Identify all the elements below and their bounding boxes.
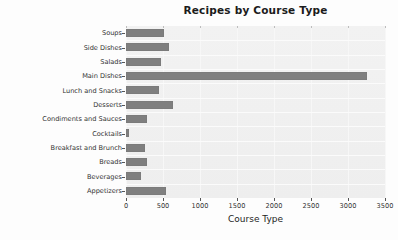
x-tick-mark-top	[163, 26, 164, 28]
x-tick-mark	[126, 198, 127, 201]
y-tick-mark	[122, 48, 125, 49]
x-axis-ticks: 0500100015002000250030003500	[126, 198, 385, 214]
y-tick-label: Salads	[4, 58, 122, 66]
bar-row[interactable]	[126, 184, 385, 198]
y-tick-label: Desserts	[4, 101, 122, 109]
bar[interactable]	[126, 187, 166, 195]
bar-row[interactable]	[126, 98, 385, 112]
bar-row[interactable]	[126, 141, 385, 155]
y-tick-label: Appetizers	[4, 187, 122, 195]
x-tick-mark	[274, 198, 275, 201]
x-tick-mark-top	[200, 26, 201, 28]
y-tick-label: Lunch and Snacks	[4, 87, 122, 95]
bar-row[interactable]	[126, 26, 385, 40]
bar-row[interactable]	[126, 55, 385, 69]
bar-row[interactable]	[126, 69, 385, 83]
x-tick-mark-top	[311, 26, 312, 28]
x-tick-label: 0	[124, 202, 128, 210]
x-tick-mark	[163, 198, 164, 201]
bar[interactable]	[126, 115, 147, 123]
x-tick-mark	[348, 198, 349, 201]
y-axis-ticks: SoupsSide DishesSaladsMain DishesLunch a…	[0, 26, 122, 198]
y-tick-mark	[122, 162, 125, 163]
bar-row[interactable]	[126, 112, 385, 126]
chart-title: Recipes by Course Type	[126, 4, 385, 20]
y-tick-label: Side Dishes	[4, 44, 122, 52]
x-tick-mark-top	[348, 26, 349, 28]
y-tick-label: Breakfast and Brunch	[4, 144, 122, 152]
x-tick-mark-top	[237, 26, 238, 28]
bar-row[interactable]	[126, 169, 385, 183]
x-tick-label: 2000	[266, 202, 283, 210]
x-tick-label: 3000	[340, 202, 357, 210]
bar[interactable]	[126, 129, 129, 137]
bar-row[interactable]	[126, 155, 385, 169]
x-tick-mark	[385, 198, 386, 201]
bar[interactable]	[126, 43, 169, 51]
y-tick-mark	[122, 177, 125, 178]
chart-figure: Recipes by Course Type SoupsSide DishesS…	[0, 0, 398, 240]
y-tick-mark	[122, 105, 125, 106]
y-tick-label: Main Dishes	[4, 72, 122, 80]
bar[interactable]	[126, 101, 173, 109]
y-tick-mark	[122, 33, 125, 34]
bar[interactable]	[126, 158, 147, 166]
y-tick-mark	[122, 134, 125, 135]
bar-row[interactable]	[126, 83, 385, 97]
bar[interactable]	[126, 86, 159, 94]
gridline-vertical	[385, 26, 386, 198]
x-tick-label: 500	[157, 202, 170, 210]
x-tick-mark	[311, 198, 312, 201]
bar-row[interactable]	[126, 126, 385, 140]
y-tick-label: Soups	[4, 29, 122, 37]
y-tick-mark	[122, 148, 125, 149]
y-tick-label: Cocktails	[4, 130, 122, 138]
bar[interactable]	[126, 144, 145, 152]
x-tick-label: 3500	[377, 202, 394, 210]
x-tick-mark-top	[385, 26, 386, 28]
bar[interactable]	[126, 29, 164, 37]
y-tick-label: Beverages	[4, 173, 122, 181]
plot-area	[126, 26, 385, 198]
x-tick-mark-top	[274, 26, 275, 28]
x-tick-mark	[237, 198, 238, 201]
y-tick-mark	[122, 62, 125, 63]
y-tick-mark	[122, 191, 125, 192]
y-tick-label: Breads	[4, 158, 122, 166]
bar-row[interactable]	[126, 40, 385, 54]
x-tick-label: 1000	[192, 202, 209, 210]
bar[interactable]	[126, 72, 367, 80]
y-tick-label: Condiments and Sauces	[4, 115, 122, 123]
x-tick-label: 1500	[229, 202, 246, 210]
x-axis-label: Course Type	[126, 214, 385, 224]
y-tick-mark	[122, 76, 125, 77]
y-tick-mark	[122, 91, 125, 92]
x-tick-mark	[200, 198, 201, 201]
bar[interactable]	[126, 58, 161, 66]
bar[interactable]	[126, 172, 141, 180]
y-tick-mark	[122, 119, 125, 120]
x-tick-label: 2500	[303, 202, 320, 210]
x-tick-mark-top	[126, 26, 127, 28]
